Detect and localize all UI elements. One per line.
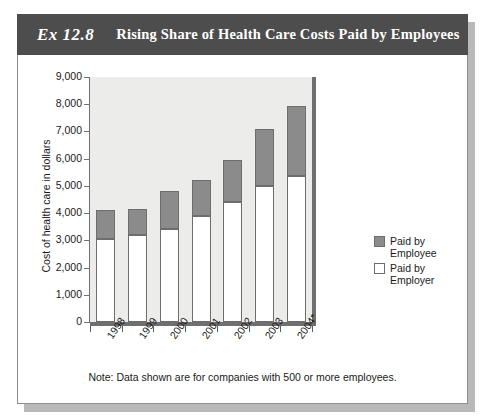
bar-segment-employee xyxy=(96,210,115,239)
white-swatch-icon xyxy=(374,263,385,274)
bar-segment-employer xyxy=(223,202,242,322)
bar-segment-employee xyxy=(160,191,179,229)
x-axis-tick xyxy=(153,326,154,332)
bar-segment-employer xyxy=(128,235,147,322)
y-axis-tick xyxy=(84,240,90,241)
bar-group xyxy=(255,55,274,322)
exhibit-title: Rising Share of Health Care Costs Paid b… xyxy=(116,26,459,43)
x-axis-tick xyxy=(280,326,281,332)
y-axis-line xyxy=(89,77,90,323)
gray-swatch-icon xyxy=(374,236,385,247)
y-axis-tick xyxy=(84,268,90,269)
bar-group xyxy=(287,55,306,322)
y-axis-tick-label: 6,000 xyxy=(28,153,82,164)
y-axis-tick-label: 5,000 xyxy=(28,180,82,191)
exhibit-card: Ex 12.8 Rising Share of Health Care Cost… xyxy=(17,14,468,404)
legend-label-employee-line2: Employee xyxy=(390,247,437,259)
x-axis-tick xyxy=(217,326,218,332)
y-axis-tick xyxy=(84,159,90,160)
bar-group xyxy=(128,55,147,322)
legend-label-employee-line1: Paid by xyxy=(390,235,425,247)
y-axis-title: Cost of health care in dollars xyxy=(40,126,52,286)
y-axis-labels: 01,0002,0003,0004,0005,0006,0007,0008,00… xyxy=(26,55,82,365)
bar-group xyxy=(223,55,242,322)
bar-segment-employee xyxy=(223,160,242,202)
bar-segment-employee xyxy=(192,180,211,215)
y-axis-tick xyxy=(84,186,90,187)
exhibit-title-bar: Ex 12.8 Rising Share of Health Care Cost… xyxy=(17,14,468,55)
y-axis-tick-label: 1,000 xyxy=(28,289,82,300)
bar-segment-employer xyxy=(160,229,179,322)
y-axis-tick xyxy=(84,131,90,132)
x-axis-tick xyxy=(122,326,123,332)
exhibit-number: Ex 12.8 xyxy=(37,25,94,45)
y-axis-tick-label: 9,000 xyxy=(28,71,82,82)
y-axis-tick-label: 3,000 xyxy=(28,234,82,245)
bar-group xyxy=(160,55,179,322)
bar-segment-employee xyxy=(287,106,306,177)
bar-group xyxy=(192,55,211,322)
bar-segment-employee xyxy=(128,209,147,235)
y-axis-tick-label: 4,000 xyxy=(28,207,82,218)
legend-item-employee: Paid by Employee xyxy=(374,235,466,259)
chart-legend: Paid by Employee Paid by Employer xyxy=(374,235,466,289)
bar-segment-employer xyxy=(255,186,274,322)
bar-segment-employee xyxy=(255,129,274,186)
plot-right-wall xyxy=(312,77,316,325)
y-axis-tick xyxy=(84,77,90,78)
x-axis-tick xyxy=(249,326,250,332)
y-axis-tick xyxy=(84,295,90,296)
chart-footnote: Note: Data shown are for companies with … xyxy=(18,371,467,383)
bar-group xyxy=(96,55,115,322)
x-axis-tick xyxy=(312,326,313,332)
legend-label-employer: Paid by Employer xyxy=(390,262,466,286)
exhibit-body: 01,0002,0003,0004,0005,0006,0007,0008,00… xyxy=(17,55,468,404)
y-axis-tick xyxy=(84,213,90,214)
x-axis-tick xyxy=(90,326,91,332)
x-axis-tick xyxy=(185,326,186,332)
y-axis-tick-label: 8,000 xyxy=(28,98,82,109)
legend-item-employer: Paid by Employer xyxy=(374,262,466,286)
y-axis-tick-label: 7,000 xyxy=(28,125,82,136)
chart-canvas: 01,0002,0003,0004,0005,0006,0007,0008,00… xyxy=(18,55,467,365)
bar-segment-employer xyxy=(287,176,306,322)
legend-label-employee: Paid by Employee xyxy=(390,235,437,259)
bar-segment-employer xyxy=(96,239,115,322)
bar-segment-employer xyxy=(192,216,211,322)
y-axis-tick-label: 0 xyxy=(28,316,82,327)
y-axis-tick-label: 2,000 xyxy=(28,262,82,273)
footnote-divider xyxy=(19,365,466,366)
y-axis-tick xyxy=(84,104,90,105)
